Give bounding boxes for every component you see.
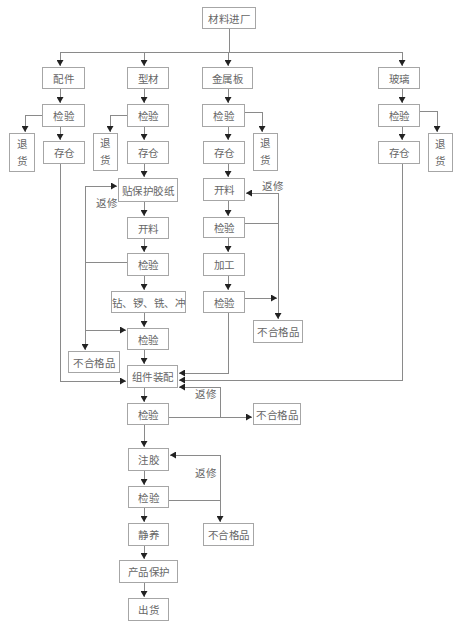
node-profiles-protect-film: 贴保护胶纸 <box>118 178 178 202</box>
node-metal-sheet-inspect-2: 检验 <box>203 217 245 238</box>
node-fittings-inspect: 检验 <box>42 104 85 127</box>
node-label: 检验 <box>138 332 159 347</box>
node-label: 检验 <box>138 257 159 272</box>
node-assembly-nonconforming: 不合格品 <box>253 403 301 425</box>
profiles-rework-label: 返修 <box>96 195 117 210</box>
node-glass-reject: 退货 <box>428 133 453 172</box>
node-material-intake: 材料进厂 <box>202 7 256 29</box>
node-label: 检验 <box>138 108 159 123</box>
assembly-rework-label: 返修 <box>195 386 216 401</box>
node-gluing: 注胶 <box>128 448 169 471</box>
node-label: 检验 <box>214 295 235 310</box>
node-profiles-inspect: 检验 <box>127 104 169 127</box>
node-label: 退货 <box>260 135 272 169</box>
node-label: 不合格品 <box>257 324 299 339</box>
node-label: 型材 <box>138 71 159 86</box>
node-assembly: 组件装配 <box>127 365 178 388</box>
node-fittings-store: 存仓 <box>43 141 85 164</box>
node-metal-sheet-reject: 退货 <box>253 133 278 171</box>
metal-sheet-rework-label: 返修 <box>262 178 283 193</box>
node-label: 退货 <box>16 136 28 170</box>
node-label: 开料 <box>138 221 159 236</box>
node-profiles: 型材 <box>127 67 169 89</box>
node-label: 开料 <box>214 182 235 197</box>
node-metal-sheet-process: 加工 <box>203 253 245 276</box>
node-label: 不合格品 <box>208 527 250 542</box>
node-label: 检验 <box>138 490 159 505</box>
node-gluing-nonconforming: 不合格品 <box>203 523 254 546</box>
node-metal-sheet-store: 存仓 <box>203 141 245 164</box>
node-profiles-nonconforming: 不合格品 <box>68 351 120 373</box>
node-metal-sheet-inspect-3: 检验 <box>203 291 245 313</box>
node-label: 材料进厂 <box>208 11 250 26</box>
node-label: 注胶 <box>138 452 159 467</box>
node-label: 加工 <box>214 257 235 272</box>
node-label: 存仓 <box>54 145 75 160</box>
node-label: 不合格品 <box>73 355 115 370</box>
gluing-rework-label: 返修 <box>195 465 216 480</box>
node-label: 组件装配 <box>132 369 174 384</box>
node-label: 不合格品 <box>256 407 298 422</box>
node-profiles-machining: 钻、锣、铣、冲 <box>111 291 186 313</box>
node-label: 检验 <box>138 407 159 422</box>
node-label: 贴保护胶纸 <box>122 183 175 198</box>
node-label: 静养 <box>138 527 159 542</box>
top-distribution-lines <box>60 29 402 66</box>
node-assembly-inspect: 检验 <box>127 403 169 425</box>
node-label: 检验 <box>389 108 410 123</box>
node-glass: 玻璃 <box>378 67 420 89</box>
node-label: 退货 <box>100 135 112 169</box>
node-shipping: 出货 <box>128 598 169 621</box>
node-label: 玻璃 <box>389 71 410 86</box>
node-curing: 静养 <box>128 523 169 546</box>
node-fittings-reject: 退货 <box>9 133 35 172</box>
node-product-protection: 产品保护 <box>119 560 178 583</box>
process-flowchart: 材料进厂 配件 检验 退货 存仓 型材 检验 退货 存仓 贴保护胶纸 开料 检验… <box>0 0 466 630</box>
node-label: 检验 <box>53 108 74 123</box>
node-label: 产品保护 <box>128 564 170 579</box>
node-profiles-reject: 退货 <box>93 133 118 171</box>
node-metal-sheet: 金属板 <box>202 67 253 89</box>
node-glass-store: 存仓 <box>378 141 420 164</box>
node-metal-sheet-cut: 开料 <box>203 178 245 201</box>
node-profiles-inspect-3: 检验 <box>127 328 169 350</box>
node-label: 出货 <box>138 602 159 617</box>
node-label: 退货 <box>435 136 447 170</box>
node-label: 检验 <box>214 220 235 235</box>
node-label: 钻、锣、铣、冲 <box>112 295 186 310</box>
node-metal-sheet-nonconforming: 不合格品 <box>253 320 303 343</box>
node-metal-sheet-inspect: 检验 <box>202 104 245 127</box>
node-gluing-inspect: 检验 <box>128 486 169 508</box>
node-label: 存仓 <box>138 145 159 160</box>
node-glass-inspect: 检验 <box>378 104 420 127</box>
node-label: 金属板 <box>212 71 244 86</box>
node-profiles-inspect-2: 检验 <box>127 253 169 276</box>
node-label: 配件 <box>53 71 74 86</box>
node-label: 存仓 <box>389 145 410 160</box>
node-label: 存仓 <box>214 145 235 160</box>
node-profiles-store: 存仓 <box>127 141 169 164</box>
node-label: 检验 <box>213 108 234 123</box>
node-profiles-cut: 开料 <box>127 217 169 239</box>
node-fittings: 配件 <box>42 67 85 89</box>
